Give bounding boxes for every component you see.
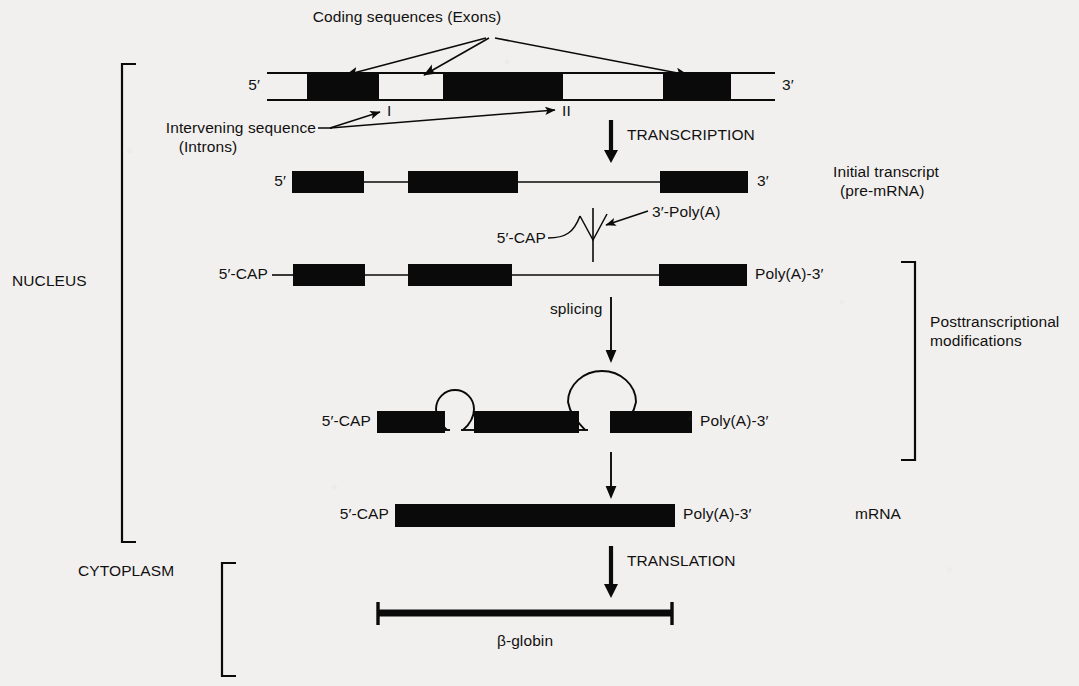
capped-exon-1 bbox=[293, 264, 365, 286]
posttranscriptional-line1: Posttranscriptional bbox=[930, 313, 1059, 331]
spliced-exon-1 bbox=[377, 411, 445, 433]
dna-exon-3 bbox=[663, 74, 731, 99]
posttranscriptional-bracket bbox=[901, 262, 915, 460]
pre-mrna-exon-3 bbox=[660, 171, 748, 193]
posttranscriptional-line2: modifications bbox=[930, 332, 1022, 350]
dna-exon-2 bbox=[443, 74, 563, 99]
introns-label: (Introns) bbox=[179, 138, 238, 156]
capped-polya-label: Poly(A)-3′ bbox=[755, 265, 824, 283]
spliced-five-prime-cap-label: 5′-CAP bbox=[322, 412, 371, 430]
capped-exon-2 bbox=[408, 264, 512, 286]
cytoplasm-bracket bbox=[222, 563, 236, 676]
capped-five-prime-cap-label: 5′-CAP bbox=[219, 265, 268, 283]
mrna-polya-label: Poly(A)-3′ bbox=[683, 505, 752, 523]
spliced-exon-3 bbox=[610, 411, 692, 433]
mrna-five-prime-cap-label: 5′-CAP bbox=[340, 505, 389, 523]
five-prime-cap-callout: 5′-CAP bbox=[497, 229, 546, 247]
figure-canvas: Coding sequences (Exons) 5′ 3′ I II Inte… bbox=[0, 0, 1079, 686]
dna-five-prime-label: 5′ bbox=[248, 76, 260, 94]
pre-mrna-exon-1 bbox=[292, 171, 364, 193]
splicing-label: splicing bbox=[550, 300, 603, 318]
splicing-arrow bbox=[606, 297, 617, 363]
spliced-polya-label: Poly(A)-3′ bbox=[700, 412, 769, 430]
intron-callout-arrows bbox=[330, 110, 555, 128]
translation-arrow bbox=[604, 546, 618, 598]
pre-mrna-three-prime-label: 3′ bbox=[757, 172, 769, 190]
translation-label: TRANSLATION bbox=[627, 552, 735, 570]
nucleus-label: NUCLEUS bbox=[12, 272, 87, 290]
beta-globin-label: β-globin bbox=[497, 632, 553, 650]
nucleus-bracket bbox=[122, 64, 136, 542]
pre-mrna-exon-2 bbox=[408, 171, 518, 193]
spliced-exon-2 bbox=[474, 411, 579, 433]
dna-three-prime-label: 3′ bbox=[782, 76, 794, 94]
pre-mrna-five-prime-label: 5′ bbox=[274, 172, 286, 190]
title-coding-sequences: Coding sequences (Exons) bbox=[313, 8, 502, 26]
initial-transcript-line2: (pre-mRNA) bbox=[840, 182, 925, 200]
capped-exon-3 bbox=[659, 264, 747, 286]
beta-globin-bar bbox=[377, 602, 673, 625]
diagram-vector-layer bbox=[0, 0, 1079, 686]
mature-mrna-bar bbox=[395, 504, 675, 527]
transcription-label: TRANSCRIPTION bbox=[627, 126, 755, 144]
intron-label-two: II bbox=[562, 102, 571, 120]
transcription-arrow bbox=[604, 120, 618, 163]
cytoplasm-label: CYTOPLASM bbox=[78, 562, 174, 580]
cap-polya-pointers bbox=[548, 208, 648, 262]
dna-exon-1 bbox=[307, 74, 379, 99]
intron-label-one: I bbox=[387, 102, 391, 120]
mrna-label: mRNA bbox=[855, 505, 901, 523]
initial-transcript-line1: Initial transcript bbox=[833, 163, 939, 181]
exon-callout-arrows bbox=[346, 38, 688, 75]
to-mrna-arrow bbox=[606, 452, 617, 499]
intervening-sequence-label: Intervening sequence bbox=[166, 119, 316, 137]
three-prime-polya-callout: 3′-Poly(A) bbox=[652, 203, 721, 221]
